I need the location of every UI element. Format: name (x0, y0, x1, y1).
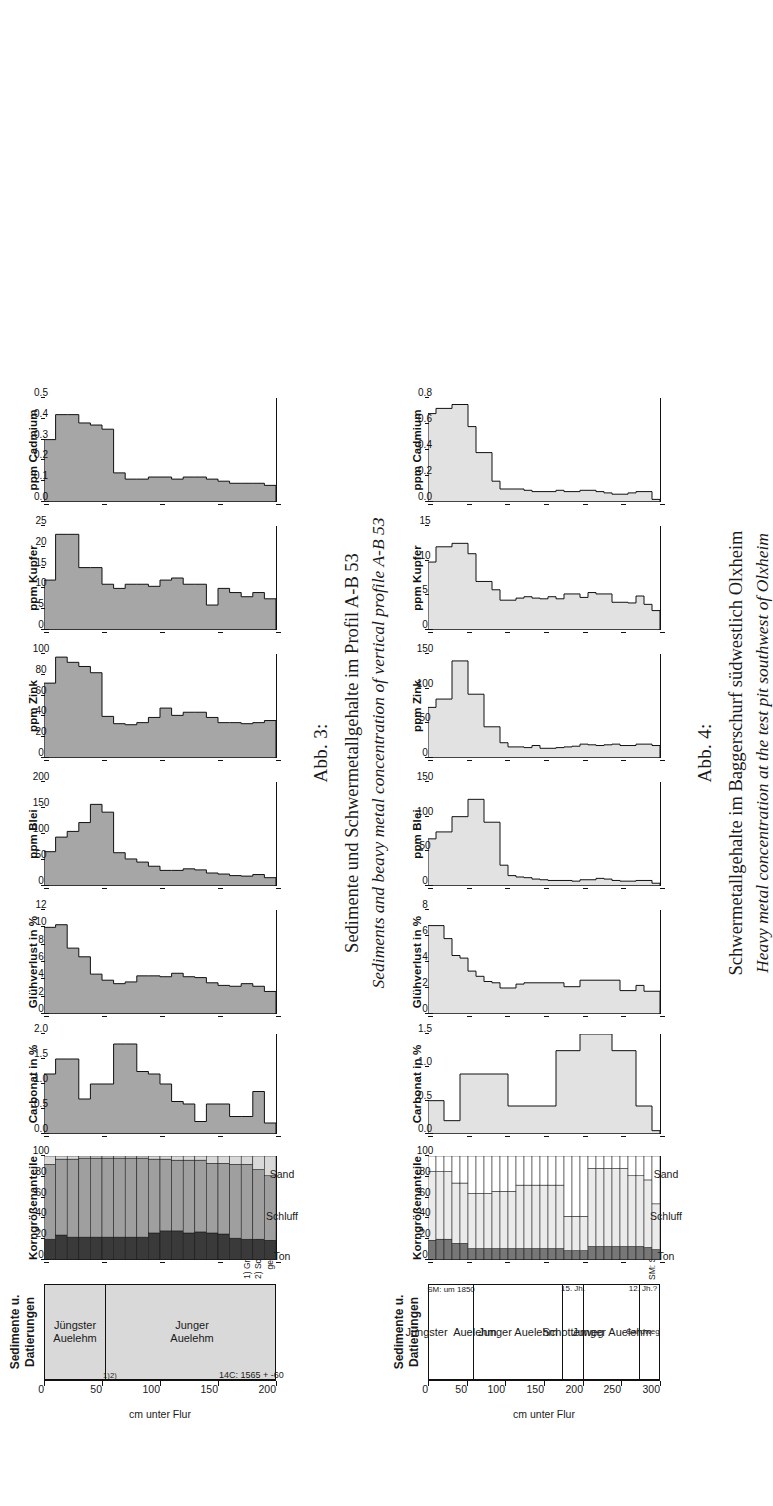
sediment-unit-label: Jüngster Auelehm (53, 1319, 96, 1344)
value-axis-tick (41, 587, 45, 588)
grain-segment (160, 1159, 172, 1231)
value-axis-tick (41, 859, 45, 860)
panel-depth-tick (44, 885, 49, 886)
value-axis-tick (41, 525, 45, 526)
panel-depth-tick (44, 501, 49, 502)
grain-segment (44, 1156, 56, 1164)
value-axis-tick (425, 1155, 429, 1156)
chart-panel-title: Carbonat in % (411, 1034, 423, 1134)
grain-segment (500, 1249, 508, 1260)
grain-segment (206, 1156, 218, 1163)
depth-tick-label: 250 (604, 1383, 622, 1395)
panel-depth-tick (621, 760, 626, 761)
plot-area (428, 654, 660, 758)
grain-segment (476, 1193, 484, 1248)
grain-segment (548, 1185, 556, 1248)
grain-segment (444, 1239, 452, 1260)
chart-panel-title: Glühverlust in % (411, 910, 423, 1014)
value-axis-tick (41, 1238, 45, 1239)
step-area-series (44, 925, 276, 1014)
value-axis-tick (425, 475, 429, 476)
panel-depth-tick (583, 888, 588, 889)
grain-segment (218, 1156, 230, 1163)
panel-depth-tick (276, 1262, 281, 1263)
value-axis-tick (41, 546, 45, 547)
panel-depth-tick (467, 760, 472, 761)
value-axis-tick (425, 1238, 429, 1239)
panel-depth-tick (218, 632, 223, 633)
sediment-unit: Jüngster AuelehmSM: um 1850 (429, 1285, 473, 1379)
panel-depth-tick (44, 1259, 49, 1260)
grain-segment (636, 1246, 644, 1260)
figure-caption-de: Sedimente und Schwermetallgehalte im Pro… (341, 0, 365, 1506)
grain-segment (90, 1158, 102, 1237)
grain-segment (67, 1237, 79, 1260)
grain-segment (596, 1168, 604, 1246)
grain-legend-label: Ton (658, 1250, 675, 1262)
value-axis-tick (425, 935, 429, 936)
chart-panel: Korngrößenanteile020406080100TonSchluffS… (428, 1156, 660, 1260)
grain-segment (628, 1156, 636, 1176)
value-axis-tick (41, 1058, 45, 1059)
grain-segment (241, 1164, 253, 1239)
grain-segment (620, 1168, 628, 1246)
value-axis-tick (41, 397, 45, 398)
panel-baseline (276, 782, 277, 886)
panel-depth-tick (218, 888, 223, 889)
value-axis-tick (41, 480, 45, 481)
value-axis-tick (41, 695, 45, 696)
grain-segment (636, 1156, 644, 1176)
grain-segment (548, 1249, 556, 1260)
grain-segment (125, 1158, 137, 1237)
panel-baseline (276, 526, 277, 630)
grain-segment (183, 1233, 195, 1260)
depth-tick-label: 200 (258, 1383, 276, 1395)
value-axis-tick (425, 1033, 429, 1034)
chart-panel: ppm Zink050100150 (428, 654, 660, 758)
value-axis-tick (41, 807, 45, 808)
value-axis-tick (41, 944, 45, 945)
step-area-series (44, 534, 276, 630)
grain-segment (90, 1156, 102, 1158)
grain-segment (540, 1249, 548, 1260)
grain-segment (612, 1168, 620, 1246)
value-axis-tick (41, 909, 45, 910)
grain-segment (125, 1237, 137, 1260)
value-axis-tick (425, 1217, 429, 1218)
grain-segment (500, 1156, 508, 1191)
chart-panel: Glühverlust in %024681012 (44, 910, 276, 1014)
step-area-series (44, 415, 276, 502)
plot-area (44, 1034, 276, 1134)
panel-depth-tick (218, 1262, 223, 1263)
grain-segment (241, 1239, 253, 1260)
sediment-unit-note: 15. Jh. (561, 1285, 585, 1294)
chart-panel: Glühverlust in %02468 (428, 910, 660, 1014)
grain-segment (548, 1156, 556, 1185)
grain-segment (428, 1240, 436, 1260)
grain-segment (195, 1232, 207, 1260)
grain-segment (572, 1156, 580, 1216)
panel-depth-tick (428, 632, 433, 633)
grain-segment (264, 1176, 276, 1240)
value-axis-tick (41, 653, 45, 654)
grain-segment (230, 1238, 242, 1260)
sediment-panel-title: Sedimente u. Datierungen (8, 1295, 38, 1370)
sediment-dating-panel: Jüngster AuelehmJunger Auelehm1)2)14C: 1… (44, 1284, 276, 1380)
grain-segment (218, 1163, 230, 1234)
grain-segment (604, 1168, 612, 1246)
grain-segment (137, 1158, 149, 1237)
grain-segment (67, 1159, 79, 1237)
value-axis-tick (41, 1176, 45, 1177)
grain-segment (588, 1156, 596, 1168)
panel-depth-tick (660, 888, 665, 889)
panel-depth-tick (428, 629, 433, 630)
step-area-series (44, 1044, 276, 1134)
value-axis-tick (41, 418, 45, 419)
plot-area (44, 654, 276, 758)
panel-depth-tick (218, 504, 223, 505)
grain-segment (172, 1156, 184, 1160)
sediment-unit-label: Sandweg (626, 1327, 659, 1336)
panel-depth-tick (583, 504, 588, 505)
grain-segment (588, 1246, 596, 1260)
panel-depth-tick (44, 1133, 49, 1134)
